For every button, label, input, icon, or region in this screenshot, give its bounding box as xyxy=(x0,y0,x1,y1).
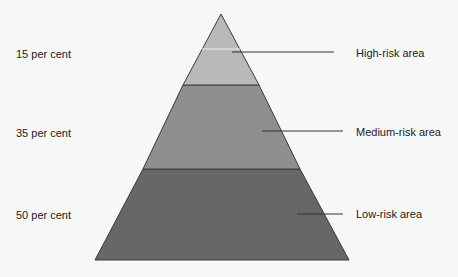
percentage-label-low: 50 per cent xyxy=(16,209,71,222)
percentage-label-high: 15 per cent xyxy=(16,48,71,61)
percentage-label-medium: 35 per cent xyxy=(16,127,71,140)
area-label-medium: Medium-risk area xyxy=(356,126,441,139)
area-label-high: High-risk area xyxy=(356,47,424,60)
pyramid-band-medium xyxy=(143,85,300,169)
area-label-low: Low-risk area xyxy=(356,208,422,221)
